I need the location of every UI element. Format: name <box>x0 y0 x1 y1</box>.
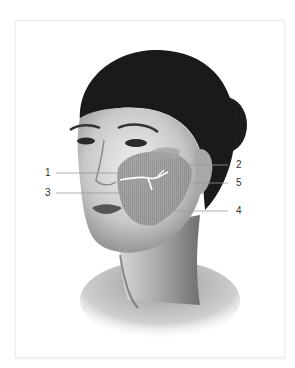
label-2: 2 <box>236 160 242 170</box>
label-3: 3 <box>45 188 51 198</box>
label-1: 1 <box>45 168 51 178</box>
right-eye <box>125 139 147 147</box>
label-5: 5 <box>236 178 242 188</box>
face-illustration <box>0 0 295 368</box>
left-eye <box>77 138 95 145</box>
label-4: 4 <box>236 206 242 216</box>
